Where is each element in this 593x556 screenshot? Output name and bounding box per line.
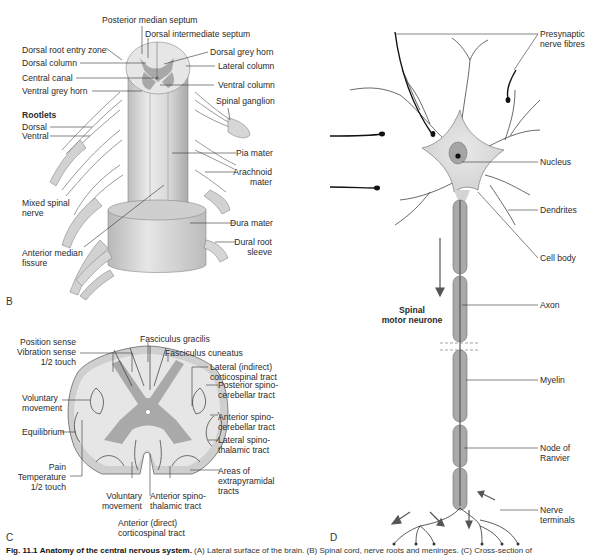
caption-text: (A) Lateral surface of the brain. (B) Sp…: [194, 546, 532, 555]
label-ventral-grey-horn: Ventral grey horn: [22, 86, 87, 96]
label-extrapyramidal-tracts: Areas ofextrapyramidaltracts: [218, 466, 274, 496]
label-anterior-spinocerebellar-tract: Anterior spino-cerebellar tract: [218, 412, 275, 432]
label-lateral-spinothalamic-tract: Lateral spino-thalamic tract: [218, 435, 270, 455]
caption-title: Anatomy of the central nervous system.: [40, 546, 192, 555]
label-dorsal-grey-horn: Dorsal grey horn: [210, 47, 274, 57]
label-fasciculus-gracilis: Fasciculus gracilis: [140, 334, 210, 344]
figure-artwork: [0, 0, 593, 556]
label-dendrites: Dendrites: [540, 205, 577, 215]
cord-cross-section: [68, 346, 228, 474]
label-voluntary-movement-anterior: Voluntarymovement: [96, 491, 142, 511]
label-fasciculus-cuneatus: Fasciculus cuneatus: [165, 348, 243, 358]
label-arachnoid-mater: Arachnoidmater: [232, 167, 272, 187]
label-myelin: Myelin: [540, 375, 565, 385]
motor-neuron-drawing: [330, 32, 540, 546]
label-equilibrium: Equilibrium: [22, 427, 65, 437]
label-lateral-corticospinal-tract: Lateral (indirect)corticospinal tract: [210, 362, 277, 382]
label-axon: Axon: [540, 300, 560, 310]
label-spinal-motor-neurone: Spinalmotor neurone: [378, 305, 446, 325]
panel-letter-b: B: [6, 296, 13, 307]
label-posterior-median-septum: Posterior median septum: [102, 15, 198, 25]
figure-caption: Fig. 11.1 Anatomy of the central nervous…: [6, 546, 532, 555]
panel-letter-d: D: [330, 532, 337, 543]
label-dorsal-root-entry-zone: Dorsal root entry zone: [22, 45, 107, 55]
panel-letter-c: C: [6, 532, 13, 543]
label-dorsal-intermediate-septum: Dorsal intermediate septum: [145, 29, 250, 39]
label-anterior-corticospinal-tract: Anterior (direct)corticospinal tract: [118, 518, 185, 538]
label-posterior-spinocerebellar-tract: Posterior spino-cerebellar tract: [218, 380, 278, 400]
label-central-canal: Central canal: [22, 73, 73, 83]
label-pain-temperature: PainTemperature1/2 touch: [8, 462, 66, 492]
label-presynaptic-nerve-fibres: Presynapticnerve fibres: [540, 29, 585, 49]
label-ventral-column: Ventral column: [218, 80, 275, 90]
label-rootlets: Rootlets: [22, 110, 56, 120]
label-pia-mater: Pia mater: [236, 148, 273, 158]
label-dural-root-sleeve: Dural rootsleeve: [228, 237, 272, 257]
label-rootlets-ventral: Ventral: [22, 131, 49, 141]
label-mixed-spinal-nerve: Mixed spinalnerve: [22, 198, 70, 218]
label-nerve-terminals: Nerveterminals: [540, 505, 575, 525]
label-anterior-median-fissure: Anterior medianfissure: [22, 248, 83, 268]
label-dorsal-column-senses: Position senseVibration sense1/2 touch: [8, 337, 76, 367]
label-nucleus: Nucleus: [540, 157, 571, 167]
label-dura-mater: Dura mater: [230, 218, 273, 228]
label-cell-body: Cell body: [540, 253, 576, 263]
label-lateral-column: Lateral column: [218, 61, 274, 71]
label-voluntary-movement: Voluntarymovement: [22, 393, 62, 413]
label-anterior-spinothalamic-tract: Anterior spino-thalamic tract: [150, 491, 206, 511]
label-spinal-ganglion: Spinal ganglion: [216, 96, 275, 106]
label-dorsal-column: Dorsal column: [22, 58, 77, 68]
label-node-of-ranvier: Node ofRanvier: [540, 443, 570, 463]
caption-figure-number: Fig. 11.1: [6, 546, 38, 555]
